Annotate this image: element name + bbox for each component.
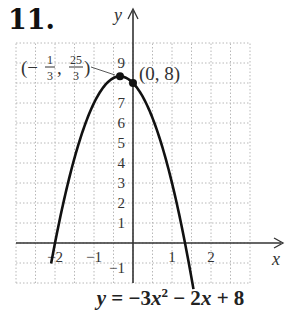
y-axis-label: y: [112, 5, 122, 25]
vertex-point: [116, 72, 124, 80]
y-tick-label: 6: [118, 115, 126, 131]
y-tick-label: 4: [118, 155, 126, 171]
x-tick-label: −2: [47, 249, 63, 265]
vertex-leader-line: [91, 67, 115, 75]
svg-text:): ): [84, 57, 90, 79]
x-tick-label: 1: [168, 249, 176, 265]
y-tick-label: 1: [118, 215, 126, 231]
x-axis-label: x: [271, 249, 280, 269]
svg-text:3: 3: [47, 69, 53, 83]
y-intercept-point: [129, 79, 137, 87]
svg-text:,: ,: [57, 57, 62, 78]
eq-x: x: [201, 286, 212, 310]
y-tick-label: 9: [118, 55, 126, 71]
eq-part: + 8: [211, 286, 244, 310]
eq-x: x: [151, 286, 162, 310]
parabola-chart: xy −2−112−112345679 (−13,253)(0, 8): [0, 0, 301, 326]
y-intercept-label: (0, 8): [139, 63, 180, 85]
svg-text:25: 25: [70, 53, 82, 67]
svg-text:3: 3: [73, 69, 79, 83]
x-tick-label: −1: [86, 249, 102, 265]
svg-text:1: 1: [47, 53, 53, 67]
y-tick-label: 7: [118, 95, 126, 111]
eq-part: = −3: [106, 286, 151, 310]
eq-part: − 2: [168, 286, 201, 310]
y-tick-label: 2: [118, 195, 126, 211]
x-tick-label: 2: [207, 249, 215, 265]
y-tick-label: 5: [118, 135, 126, 151]
y-tick-label: −1: [109, 260, 125, 276]
svg-text:(−: (−: [21, 57, 38, 79]
equation-caption: y = −3x2 − 2x + 8: [0, 285, 301, 311]
y-tick-label: 3: [118, 175, 126, 191]
eq-y: y: [97, 286, 106, 310]
key-points: (−13,253)(0, 8): [21, 53, 180, 87]
